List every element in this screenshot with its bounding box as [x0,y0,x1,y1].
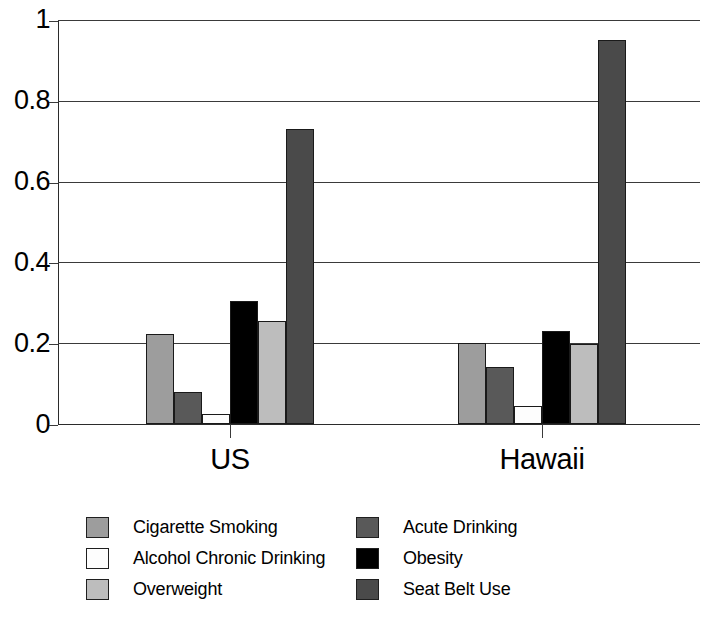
y-axis-label-0-4: 0.4 [0,249,50,276]
bar-us-overweight [258,321,286,424]
y-tick-0-2 [49,344,58,345]
bar-hawaii-cigarette-smoking [458,343,486,424]
category-label-us: US [170,443,290,475]
y-tick-0-8 [49,102,58,103]
legend-item-obesity[interactable]: Obesity [356,543,517,574]
bar-group-hawaii [458,20,626,424]
bar-hawaii-alcohol-chronic-drinking [514,406,542,424]
y-tick-0-6 [49,183,58,184]
bar-hawaii-obesity [542,331,570,424]
legend-item-acute-drinking[interactable]: Acute Drinking [356,512,517,543]
legend-item-cigarette-smoking[interactable]: Cigarette Smoking [86,512,325,543]
legend-column-left: Cigarette Smoking Alcohol Chronic Drinki… [86,512,325,605]
legend-label-overweight: Overweight [133,579,222,600]
bar-hawaii-seat-belt-use [598,40,626,424]
y-tick-1-0 [49,21,58,22]
y-axis-label-0-6: 0.6 [0,168,50,195]
legend-label-alcohol-chronic-drinking: Alcohol Chronic Drinking [133,548,325,569]
bar-hawaii-acute-drinking [486,367,514,424]
legend-item-overweight[interactable]: Overweight [86,574,325,605]
bar-us-acute-drinking [174,392,202,424]
category-label-hawaii: Hawaii [467,443,617,475]
bar-group-us [146,20,314,424]
bar-chart: 1 0.8 0.6 0.4 0.2 0 [0,0,707,624]
y-axis-label-0: 0 [0,411,50,438]
legend-label-acute-drinking: Acute Drinking [403,517,517,538]
y-tick-0-4 [49,263,58,264]
y-axis-label-0-8: 0.8 [0,87,50,114]
y-tick-0 [49,425,58,426]
bar-us-seat-belt-use [286,129,314,424]
legend-swatch-overweight [86,579,109,600]
legend-label-obesity: Obesity [403,548,463,569]
category-tick-hawaii [542,424,543,438]
y-axis-label-0-2: 0.2 [0,330,50,357]
gridline-0-baseline [58,424,700,425]
legend-label-seat-belt-use: Seat Belt Use [403,579,510,600]
legend-label-cigarette-smoking: Cigarette Smoking [133,517,278,538]
legend-swatch-seat-belt-use [356,579,379,600]
bar-us-alcohol-chronic-drinking [202,414,230,424]
legend-item-seat-belt-use[interactable]: Seat Belt Use [356,574,517,605]
legend-swatch-alcohol-chronic-drinking [86,548,109,569]
legend-swatch-obesity [356,548,379,569]
legend-column-right: Acute Drinking Obesity Seat Belt Use [356,512,517,605]
bar-us-obesity [230,301,258,424]
legend-item-alcohol-chronic-drinking[interactable]: Alcohol Chronic Drinking [86,543,325,574]
category-tick-us [230,424,231,438]
legend-swatch-cigarette-smoking [86,517,109,538]
y-axis-label-1: 1 [0,6,50,33]
bar-hawaii-overweight [570,344,598,424]
bar-us-cigarette-smoking [146,334,174,424]
legend-swatch-acute-drinking [356,517,379,538]
plot-area [58,20,700,424]
